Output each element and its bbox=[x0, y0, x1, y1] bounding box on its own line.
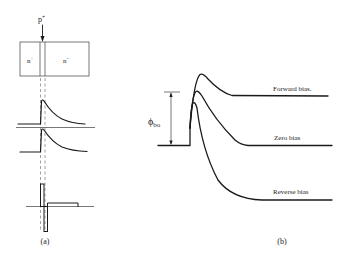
camel-diode-diagram: p+ n+ n− (a) bbox=[0, 0, 349, 257]
label-zero-bias: Zero bias bbox=[274, 134, 301, 142]
baseline bbox=[158, 128, 190, 146]
curve-forward-bias bbox=[190, 74, 328, 128]
n-minus-region-label: n− bbox=[63, 56, 70, 65]
curve-zero-bias bbox=[190, 91, 332, 145]
barrier-height-marker bbox=[164, 92, 180, 145]
down-arrow-icon bbox=[41, 25, 45, 42]
panel-b: ϕbo Forward bias. Zero bias Reverse bias… bbox=[148, 74, 332, 246]
energy-profile-lower bbox=[20, 129, 87, 152]
label-reverse-bias: Reverse bias bbox=[273, 188, 309, 196]
label-forward-bias: Forward bias. bbox=[273, 85, 312, 93]
barrier-height-label: ϕbo bbox=[148, 116, 161, 129]
panel-a: p+ n+ n− (a) bbox=[16, 14, 95, 246]
n-plus-region-label: n+ bbox=[27, 56, 34, 65]
curve-reverse-bias bbox=[190, 103, 332, 200]
panel-b-caption: (b) bbox=[277, 237, 287, 246]
panel-a-caption: (a) bbox=[41, 237, 50, 246]
energy-profile-upper bbox=[18, 100, 85, 124]
arrow-down-icon bbox=[169, 141, 172, 146]
arrow-up-icon bbox=[169, 93, 172, 98]
p-plus-label: p+ bbox=[38, 14, 45, 24]
charge-density-diagram bbox=[26, 184, 94, 232]
